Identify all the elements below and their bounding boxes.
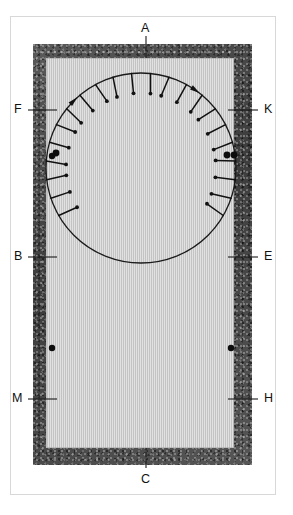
pin-mark bbox=[51, 190, 72, 198]
pin-mark bbox=[205, 202, 223, 216]
pin-mark bbox=[50, 142, 71, 149]
pin-marks bbox=[46, 73, 235, 215]
pin-mark bbox=[189, 95, 202, 114]
pin-mark bbox=[212, 142, 233, 151]
label-f: F bbox=[14, 103, 22, 116]
pin-mark bbox=[175, 85, 186, 104]
pin-mark bbox=[59, 205, 79, 215]
anchor-dots bbox=[49, 150, 238, 352]
circle-dot-right-upper bbox=[224, 152, 231, 159]
wall-dot-left-lower bbox=[49, 345, 55, 351]
label-b: B bbox=[14, 250, 23, 263]
label-m: M bbox=[12, 392, 23, 405]
circle-dot-left-upper bbox=[53, 150, 60, 157]
pin-mark bbox=[132, 73, 136, 95]
pin-mark bbox=[96, 85, 109, 104]
label-k: K bbox=[264, 103, 273, 116]
label-c: C bbox=[141, 473, 150, 486]
wall-dot-right-upper bbox=[231, 152, 238, 159]
leader-lines bbox=[28, 36, 258, 468]
pin-mark bbox=[159, 77, 169, 97]
pin-mark bbox=[80, 95, 95, 112]
arrowhead bbox=[190, 85, 200, 93]
label-e: E bbox=[264, 250, 273, 263]
pin-mark bbox=[113, 77, 119, 99]
pin-mark bbox=[46, 161, 68, 166]
pin-mark bbox=[206, 125, 226, 136]
pin-mark bbox=[214, 175, 236, 179]
pin-mark bbox=[47, 173, 68, 179]
pin-mark bbox=[214, 159, 236, 163]
label-h: H bbox=[264, 392, 273, 405]
label-a: A bbox=[141, 22, 150, 35]
diagram-vectors bbox=[0, 0, 293, 515]
wall-dot-right-lower bbox=[228, 345, 234, 351]
pin-mark bbox=[67, 109, 83, 125]
pin-mark bbox=[210, 192, 231, 198]
figure-container: AFKBEMHC bbox=[0, 0, 293, 515]
pin-mark bbox=[149, 73, 153, 95]
pin-mark bbox=[56, 125, 77, 134]
pin-mark bbox=[196, 109, 215, 122]
